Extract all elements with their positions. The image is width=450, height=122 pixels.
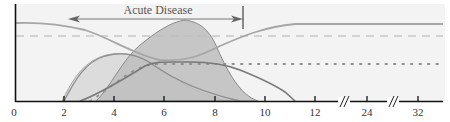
tick-label-0: 0	[11, 106, 17, 118]
tick-label-8: 8	[212, 106, 218, 118]
axis-break-2	[387, 96, 399, 107]
tick-label-32: 32	[413, 106, 424, 118]
tick-label-2: 2	[61, 106, 67, 118]
tick-label-12: 12	[310, 106, 321, 118]
tick-label-4: 4	[111, 106, 117, 118]
axis-break-1	[338, 96, 350, 107]
acute-disease-label: Acute Disease	[124, 3, 193, 17]
tick-label-10: 10	[260, 106, 272, 118]
tick-label-24: 24	[362, 106, 374, 118]
chart: Acute Disease 0 2 4 6 8 10 12 24 32	[0, 0, 450, 122]
tick-label-6: 6	[161, 106, 167, 118]
